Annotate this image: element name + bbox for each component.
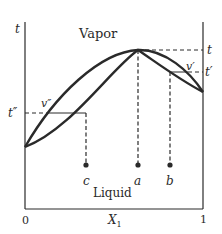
x-axis-label-main: X — [108, 213, 117, 227]
point-c — [83, 162, 88, 167]
t-double-prime-label: t″ — [8, 107, 17, 119]
liquid-region-label: Liquid — [93, 187, 132, 199]
t-label: t — [207, 44, 212, 56]
point-a-label: a — [134, 175, 141, 187]
x-axis-label-subscript: 1 — [117, 220, 122, 229]
point-b-label: b — [166, 175, 174, 187]
x-tick-1: 1 — [200, 214, 207, 225]
t-prime-label: t′ — [205, 66, 213, 78]
v-double-prime-label: v″ — [41, 98, 51, 109]
point-a — [135, 162, 140, 167]
vapor-region-label: Vapor — [79, 27, 117, 40]
x-tick-0: 0 — [22, 215, 29, 226]
point-b — [167, 162, 172, 167]
x-axis-label: X1 — [108, 214, 122, 229]
y-axis-label: t — [15, 23, 20, 35]
point-c-label: c — [83, 175, 90, 187]
v-prime-label: v′ — [186, 61, 195, 72]
